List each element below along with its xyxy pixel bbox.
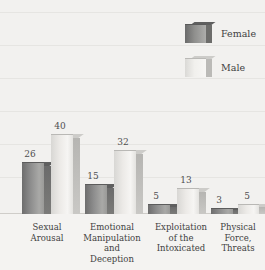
bar-front-face (211, 208, 233, 214)
category-label-physical-force: Physical Force, Threats (212, 222, 264, 254)
category-label-line: Deception (72, 254, 152, 265)
bar-male-sexual-arousal (51, 134, 73, 214)
category-label-emotional-manipulation: Emotional Manipulation and Deception (72, 222, 152, 264)
legend-swatch-side-face (206, 59, 212, 77)
bar-side-face (170, 207, 177, 214)
value-label-female-exploitation-intoxicated: 5 (143, 192, 169, 201)
value-label-male-exploitation-intoxicated: 13 (173, 176, 199, 185)
bar-side-face (107, 188, 114, 214)
category-label-line: and (72, 243, 152, 254)
legend-swatch-female-icon (185, 22, 206, 43)
bar-female-sexual-arousal (22, 162, 44, 214)
bar-front-face (51, 134, 73, 214)
value-label-female-physical-force: 3 (206, 196, 232, 205)
category-label-line: of the (142, 233, 220, 244)
category-label-line: Manipulation (72, 233, 152, 244)
legend-swatch-front-face (185, 58, 206, 77)
bar-front-face (177, 188, 199, 214)
legend-label-male: Male (221, 63, 245, 73)
bar-side-face (44, 166, 51, 214)
bar-male-physical-force (238, 204, 259, 214)
bar-male-exploitation-intoxicated (177, 188, 199, 214)
value-label-male-physical-force: 5 (234, 192, 260, 201)
bar-side-face (136, 154, 143, 214)
legend-swatch-side-face (206, 25, 212, 43)
bar-side-face (73, 138, 80, 214)
legend-swatch-front-face (185, 24, 206, 43)
value-label-male-emotional-manipulation: 32 (110, 138, 136, 147)
value-label-female-emotional-manipulation: 15 (80, 172, 106, 181)
legend-label-female: Female (221, 29, 256, 39)
bar-female-emotional-manipulation (85, 184, 107, 214)
category-label-line: Intoxicated (142, 243, 220, 254)
category-label-line: Emotional (72, 222, 152, 233)
bar-front-face (148, 204, 170, 214)
category-label-line: Physical (212, 222, 264, 233)
bar-front-face (238, 204, 259, 214)
bar-side-face (199, 192, 206, 214)
category-label-line: Force, (212, 233, 264, 244)
value-label-male-sexual-arousal: 40 (47, 122, 73, 131)
bar-chart: 26 40 15 32 5 13 3 5 Sexual Arousal Emot… (0, 0, 265, 270)
bar-front-face (114, 150, 136, 214)
value-label-female-sexual-arousal: 26 (17, 150, 43, 159)
bar-female-physical-force (211, 208, 233, 214)
bar-front-face (85, 184, 107, 214)
category-label-exploitation-intoxicated: Exploitation of the Intoxicated (142, 222, 220, 254)
bar-front-face (22, 162, 44, 214)
bar-side-face (259, 207, 265, 214)
category-label-line: Exploitation (142, 222, 220, 233)
legend-swatch-male-icon (185, 56, 206, 77)
bar-female-exploitation-intoxicated (148, 204, 170, 214)
bar-male-emotional-manipulation (114, 150, 136, 214)
category-label-line: Threats (212, 243, 264, 254)
